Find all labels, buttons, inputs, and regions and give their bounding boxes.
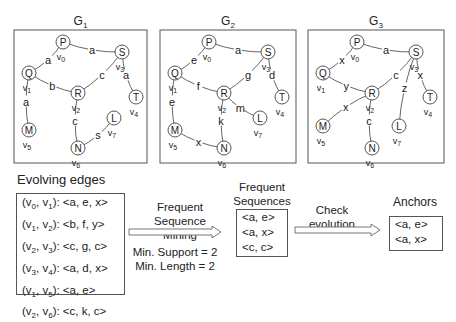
mining-parameters: Min. Support = 2Min. Length = 2 xyxy=(128,245,222,273)
edge-label: x xyxy=(417,69,423,81)
node-label: R xyxy=(74,88,81,99)
mining-label-line: Frequent xyxy=(140,200,220,214)
evolving-edges-heading: Evolving edges xyxy=(17,172,105,187)
vertex-id: v7 xyxy=(254,128,263,139)
node-label: Q xyxy=(319,68,327,79)
anchors-heading: Anchors xyxy=(385,195,445,209)
edge-label: x xyxy=(343,101,349,113)
node-label: N xyxy=(368,143,375,154)
vertex-id: v6 xyxy=(218,158,227,169)
node-label: M xyxy=(171,125,179,136)
frequent-sequences-heading: FrequentSequences xyxy=(233,180,291,208)
evolving-edge-row: (v3, v4): <a, d, x> xyxy=(22,260,124,282)
edge-label: c xyxy=(366,115,372,127)
evolving-edge-row: (v0, v1): <a, e, x> xyxy=(22,194,124,216)
node-label: Q xyxy=(25,68,33,79)
node-label: L xyxy=(257,113,263,124)
frequent-heading-line: Frequent xyxy=(233,180,291,194)
edge-label: s xyxy=(95,129,101,141)
frequent-sequences-list: <a, e><a, x><c, c> xyxy=(236,209,288,257)
node-label: L xyxy=(111,113,117,124)
node-label: P xyxy=(206,37,213,48)
edge-label: e xyxy=(191,54,197,66)
graph-title: G1 xyxy=(74,14,88,30)
edge-label: z xyxy=(402,82,408,94)
vertex-id: v1 xyxy=(317,83,326,94)
graph-title: G2 xyxy=(221,14,235,30)
edge-label: b xyxy=(49,80,55,92)
vertex-id: v7 xyxy=(393,136,402,147)
node-label: T xyxy=(427,92,433,103)
frequent-sequence-item: <c, c> xyxy=(242,240,287,255)
edge-label: m xyxy=(236,102,245,114)
mining-param: Min. Length = 2 xyxy=(128,259,222,273)
evolving-edge-row: (v1, v5): <a, e> xyxy=(22,282,124,304)
vertex-id: v4 xyxy=(424,107,433,118)
edge-label: k xyxy=(218,115,224,127)
node-label: N xyxy=(220,143,227,154)
node-label: Q xyxy=(171,68,179,79)
vertex-id: v2 xyxy=(366,103,375,114)
vertex-id: v6 xyxy=(72,158,81,169)
vertex-id: v4 xyxy=(130,107,139,118)
graph-panel-2: G2eafgdekxmPv0Qv1Rv2Sv3Tv4Mv5Nv6Lv7 xyxy=(160,14,296,169)
node-label: T xyxy=(133,92,139,103)
vertex-id: v1 xyxy=(169,83,178,94)
node-label: R xyxy=(220,88,227,99)
frequent-heading-line: Sequences xyxy=(233,194,291,208)
node-label: M xyxy=(319,121,327,132)
edge-label: a xyxy=(235,44,242,56)
edge-label: a xyxy=(23,96,30,108)
graph-title: G3 xyxy=(369,14,383,30)
node-label: N xyxy=(74,143,81,154)
mining-param: Min. Support = 2 xyxy=(128,245,222,259)
node-label: M xyxy=(25,125,33,136)
evolving-edges-list: (v0, v1): <a, e, x>(v1, v2): <b, f, y>(v… xyxy=(16,193,125,295)
anchor-item: <a, x> xyxy=(395,232,442,247)
mining-arrow xyxy=(128,226,222,238)
node-label: T xyxy=(279,92,285,103)
node-label: S xyxy=(265,47,272,58)
edge-label: a xyxy=(89,44,96,56)
node-label: R xyxy=(368,88,375,99)
evolution-arrow xyxy=(294,224,382,236)
vertex-id: v5 xyxy=(23,140,32,151)
evolution-label-line: Check xyxy=(296,203,368,217)
edge-label: c xyxy=(99,69,105,81)
vertex-id: v1 xyxy=(23,83,32,94)
vertex-id: v0 xyxy=(351,52,360,63)
node-label: P xyxy=(60,37,67,48)
edge-label: a xyxy=(383,44,390,56)
vertex-id: v7 xyxy=(108,128,117,139)
node-label: S xyxy=(119,47,126,58)
evolving-edge-row: (v2, v6): <c, k, c> xyxy=(22,303,124,322)
evolving-edge-row: (v2, v3): <c, g, c> xyxy=(22,238,124,260)
node-label: L xyxy=(396,121,402,132)
node-label: P xyxy=(354,37,361,48)
vertex-id: v5 xyxy=(317,136,326,147)
graph-panel-1: G1aabcaacsPv0Qv1Rv2Sv3Tv4Mv5Nv6Lv7 xyxy=(14,14,147,169)
frequent-sequence-item: <a, e> xyxy=(242,210,287,225)
anchors-list: <a, e><a, x> xyxy=(389,216,443,251)
node-label: S xyxy=(413,47,420,58)
vertex-id: v0 xyxy=(203,52,212,63)
evolving-edge-row: (v1, v2): <b, f, y> xyxy=(22,216,124,238)
vertex-id: v0 xyxy=(57,52,66,63)
vertex-id: v2 xyxy=(218,103,227,114)
evolving-graphs: G1aabcaacsPv0Qv1Rv2Sv3Tv4Mv5Nv6Lv7G2eafg… xyxy=(0,0,456,170)
edge-label: a xyxy=(45,54,52,66)
edge-label: c xyxy=(393,69,399,81)
edge-label: e xyxy=(169,96,175,108)
graph-panel-3: G3xaycxxczPv0Qv1Rv2Sv3Tv4Mv5Nv6Lv7 xyxy=(308,14,444,169)
edge-label: g xyxy=(245,69,251,81)
vertex-id: v4 xyxy=(276,107,285,118)
edge-label: c xyxy=(72,115,78,127)
edge-label: y xyxy=(344,80,350,92)
vertex-id: v2 xyxy=(72,103,81,114)
edge-label: x xyxy=(339,54,345,66)
vertex-id: v5 xyxy=(169,140,178,151)
vertex-id: v6 xyxy=(366,158,375,169)
frequent-sequence-item: <a, x> xyxy=(242,225,287,240)
anchor-item: <a, e> xyxy=(395,217,442,232)
edge-label: x xyxy=(196,136,202,148)
